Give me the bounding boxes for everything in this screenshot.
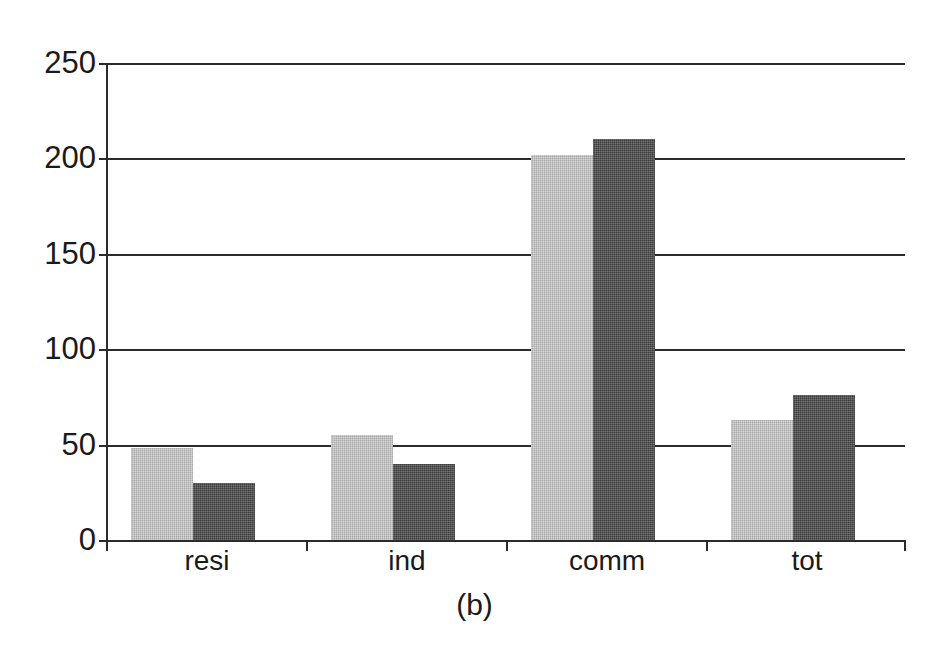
bar-tot-series-1 [731, 420, 793, 540]
gridline-100 [107, 349, 905, 351]
bar-comm-series-2 [593, 139, 655, 540]
bar-ind-series-1 [331, 435, 393, 540]
bar-resi-series-1 [131, 448, 193, 540]
y-tick-label-100: 100 [8, 333, 96, 364]
figure-caption: (b) [0, 588, 949, 622]
figure-panel-b: 250 200 150 100 50 0 resi ind comm tot (… [0, 0, 949, 667]
x-tick-label-resi: resi [107, 546, 307, 577]
y-tick-label-0: 0 [8, 524, 96, 555]
bar-tot-series-2 [793, 395, 855, 540]
y-tick-label-250: 250 [8, 47, 96, 78]
x-tick-label-ind: ind [307, 546, 507, 577]
y-tick-100 [99, 349, 108, 351]
y-tick-200 [99, 158, 108, 160]
y-tick-label-150: 150 [8, 238, 96, 269]
plot-area [107, 63, 905, 540]
y-tick-label-200: 200 [8, 142, 96, 173]
y-tick-50 [99, 445, 108, 447]
y-axis-line [106, 63, 108, 542]
bar-resi-series-2 [193, 483, 255, 540]
x-tick-label-comm: comm [507, 546, 707, 577]
gridline-200 [107, 158, 905, 160]
y-tick-150 [99, 254, 108, 256]
gridline-250 [107, 63, 905, 65]
x-tick-label-tot: tot [707, 546, 907, 577]
gridline-150 [107, 254, 905, 256]
y-tick-label-50: 50 [8, 429, 96, 460]
y-tick-250 [99, 63, 108, 65]
bar-comm-series-1 [531, 155, 593, 540]
bar-ind-series-2 [393, 464, 455, 540]
